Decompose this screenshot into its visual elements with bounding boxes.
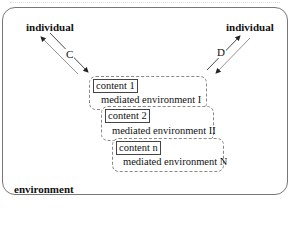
arrow-c-label: C (65, 49, 74, 60)
mediated-environment-label-1: mediated environment I (101, 95, 201, 106)
arrow-d-icon (207, 36, 250, 73)
content-tag-1: content 1 (93, 79, 138, 93)
mediated-environment-box-1: content 1 mediated environment I (89, 76, 207, 110)
content-tag-n: content n (116, 141, 161, 155)
mediated-environment-box-n: content n mediated environment N (112, 138, 224, 172)
arrow-d-label: D (216, 47, 226, 58)
mediated-environment-box-2: content 2 mediated environment II (101, 106, 214, 141)
mediated-environment-label-2: mediated environment II (112, 126, 216, 137)
content-tag-2: content 2 (105, 109, 150, 123)
mediated-environment-label-n: mediated environment N (123, 157, 227, 168)
environment-label: environment (14, 184, 74, 195)
